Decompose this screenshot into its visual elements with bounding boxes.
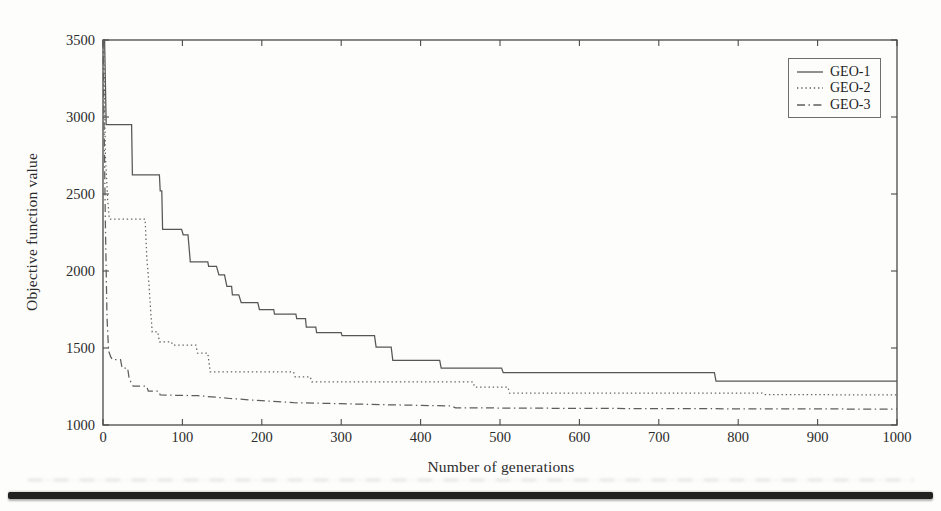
- series-line-geo-2: [103, 40, 897, 395]
- y-tick-label: 2000: [66, 263, 95, 279]
- y-tick-label: 2500: [66, 186, 95, 202]
- legend-label: GEO-2: [830, 81, 870, 95]
- legend-item-geo-2: GEO-2: [796, 81, 875, 95]
- x-tick-label: 100: [172, 429, 194, 445]
- x-tick-label: 200: [251, 429, 273, 445]
- solid-line-sample-icon: [796, 69, 824, 75]
- y-tick-label: 1000: [66, 417, 95, 433]
- x-tick-label: 700: [648, 429, 670, 445]
- y-axis-label: Objective function value: [23, 153, 41, 311]
- legend-label: GEO-3: [830, 98, 870, 112]
- x-tick-label: 600: [569, 429, 591, 445]
- x-tick-label: 900: [807, 429, 829, 445]
- y-tick-label: 3500: [66, 32, 95, 48]
- x-tick-label: 800: [727, 429, 749, 445]
- plot-border: [103, 40, 897, 425]
- x-tick-label: 0: [99, 429, 106, 445]
- x-tick-label: 300: [330, 429, 352, 445]
- x-tick-label: 1000: [883, 429, 912, 445]
- x-tick-label: 500: [489, 429, 511, 445]
- dashdot-line-sample-icon: [796, 102, 824, 108]
- scanned-figure-page: 0100200300400500600700800900100010001500…: [0, 0, 941, 511]
- legend: GEO-1GEO-2GEO-3: [788, 58, 881, 118]
- legend-item-geo-3: GEO-3: [796, 98, 875, 112]
- separator-bar: [8, 492, 933, 499]
- legend-item-geo-1: GEO-1: [796, 65, 875, 79]
- legend-label: GEO-1: [830, 65, 870, 79]
- series-line-geo-3: [103, 40, 897, 409]
- scan-artifact: [28, 478, 914, 482]
- x-tick-label: 400: [410, 429, 432, 445]
- y-tick-label: 1500: [66, 340, 95, 356]
- series-line-geo-1: [103, 40, 897, 381]
- dotted-line-sample-icon: [796, 85, 824, 91]
- x-axis-label: Number of generations: [427, 458, 574, 476]
- y-tick-label: 3000: [66, 109, 95, 125]
